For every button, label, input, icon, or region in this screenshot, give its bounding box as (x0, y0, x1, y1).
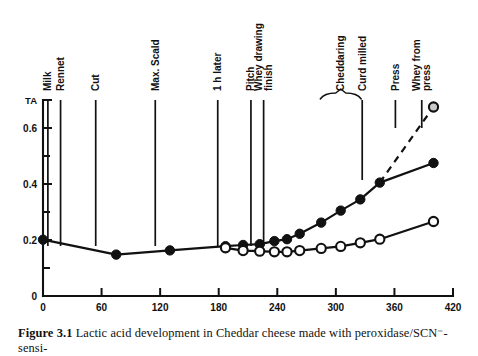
data-point-peroxidase-treated-10 (429, 217, 438, 226)
x-tick-label-7: 420 (445, 302, 462, 312)
caption-text: Lactic acid development in Cheddar chees… (18, 326, 448, 355)
y-tick-label-1: 0.2 (23, 235, 37, 246)
event-label-10: press (421, 64, 432, 91)
chart-plot: MilkRennetCutMax. Scald1 h laterPitchWhe… (0, 0, 478, 312)
data-point-peroxidase-treated-6 (317, 244, 326, 253)
data-point-peroxidase-treated-0 (221, 243, 230, 252)
data-point-control-6 (270, 236, 279, 245)
event-label-9: Press (390, 63, 401, 91)
data-point-control-0 (38, 235, 47, 244)
event-label-4: 1 h later (212, 53, 223, 91)
y-tick-label-3: 0.6 (23, 123, 37, 134)
axes-group (43, 100, 453, 296)
x-tick-label-2: 120 (152, 302, 169, 312)
event-label-0: Milk (42, 71, 53, 91)
event-label-2: Cut (90, 74, 101, 91)
data-point-control-1 (112, 250, 121, 259)
event-label-7: Cheddaring (335, 35, 346, 91)
data-point-control-8 (295, 229, 304, 238)
event-labels-group: MilkRennetCutMax. Scald1 h laterPitchWhe… (42, 23, 432, 91)
data-point-control-9 (317, 218, 326, 227)
data-point-peroxidase-treated-5 (295, 246, 304, 255)
y-axis-title: TA (25, 95, 37, 106)
data-point-control-11 (356, 195, 365, 204)
event-label-6: finish (263, 64, 274, 91)
data-point-peroxidase-treated-7 (336, 242, 345, 251)
series-line-whey-from-press (380, 107, 434, 183)
x-tick-label-5: 300 (328, 302, 345, 312)
data-point-control-2 (165, 246, 174, 255)
data-point-control-12 (375, 178, 384, 187)
data-point-peroxidase-treated-8 (356, 238, 365, 247)
data-point-peroxidase-treated-3 (270, 247, 279, 256)
event-label-8: Curd milled (357, 36, 368, 91)
caption-label: Figure 3.1 (18, 326, 72, 340)
x-tick-label-6: 360 (386, 302, 403, 312)
y-tick-label-2: 0.4 (23, 179, 37, 190)
data-point-control-13 (429, 158, 438, 167)
data-point-control-10 (336, 206, 345, 215)
x-tick-label-1: 60 (96, 302, 108, 312)
y-tick-label-0: 0 (31, 291, 37, 302)
data-point-control-7 (282, 235, 291, 244)
x-tick-label-4: 240 (269, 302, 286, 312)
data-series-group (38, 102, 438, 259)
data-point-peroxidase-treated-1 (239, 246, 248, 255)
data-point-whey-from-press-1 (429, 102, 438, 111)
figure-caption: Figure 3.1 Lactic acid development in Ch… (18, 326, 466, 356)
x-tick-label-3: 180 (210, 302, 227, 312)
data-point-peroxidase-treated-4 (282, 247, 291, 256)
data-point-peroxidase-treated-9 (375, 235, 384, 244)
event-label-1: Rennet (55, 56, 66, 91)
event-label-3: Max. Scald (150, 39, 161, 91)
x-tick-label-0: 0 (40, 302, 46, 312)
data-point-peroxidase-treated-2 (255, 247, 264, 256)
event-lines-group (48, 89, 422, 246)
